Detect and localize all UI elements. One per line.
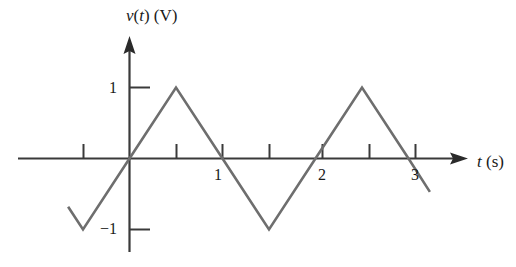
- x-tick-label-2: 2: [318, 167, 326, 183]
- y-tick-label-1: 1: [109, 80, 117, 96]
- plot-canvas: [0, 0, 516, 267]
- y-axis-title: v(t) (V): [126, 7, 177, 24]
- x-axis-title: t (s): [477, 153, 504, 170]
- x-tick-label-1: 1: [214, 167, 222, 183]
- y-tick-label-minus-1: −1: [100, 221, 117, 237]
- x-tick-label-3: 3: [411, 167, 419, 183]
- x-axis: [18, 153, 468, 165]
- y-axis: [124, 36, 136, 252]
- waveform-figure: v(t) (V) t (s) 1 −1 1 2 3: [0, 0, 516, 267]
